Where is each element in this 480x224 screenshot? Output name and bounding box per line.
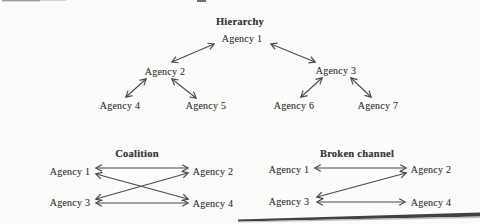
broken-channel-edges (315, 168, 406, 202)
hierarchy-node-agency1: Agency 1 (222, 33, 263, 44)
hierarchy-node-agency2: Agency 2 (145, 66, 186, 77)
top-edge-mark-faint (40, 0, 66, 1)
coalition-title: Coalition (115, 148, 159, 159)
coalition-edges (96, 168, 188, 203)
hierarchy-node-agency6: Agency 6 (274, 100, 315, 111)
coalition-node-agency2: Agency 2 (193, 166, 234, 177)
coalition-node-agency3: Agency 3 (50, 197, 91, 208)
edge-hierarchy-agency1-agency3 (271, 44, 315, 62)
scanned-diagram-page: Hierarchy Agency 1 Agency 2 Agency 3 Age… (0, 0, 480, 224)
top-edge-mark-left (2, 0, 40, 1)
broken-channel-node-agency4: Agency 4 (411, 197, 452, 208)
coalition-node-agency1: Agency 1 (50, 166, 91, 177)
broken-channel-title: Broken channel (320, 148, 394, 159)
hierarchy-node-agency4: Agency 4 (100, 100, 141, 111)
broken-channel-node-agency1: Agency 1 (269, 164, 310, 175)
edge-hierarchy-agency2-agency4 (126, 79, 146, 97)
hierarchy-node-agency5: Agency 5 (186, 100, 227, 111)
edge-hierarchy-agency3-agency6 (301, 78, 322, 97)
hierarchy-node-agency3: Agency 3 (316, 65, 357, 76)
edge-hierarchy-agency1-agency2 (172, 44, 214, 62)
top-edge-mark-center (197, 0, 206, 2)
hierarchy-node-agency7: Agency 7 (358, 100, 399, 111)
broken-channel-node-agency2: Agency 2 (411, 164, 452, 175)
edge-hierarchy-agency2-agency5 (172, 79, 196, 98)
edge-hierarchy-agency3-agency7 (351, 78, 371, 97)
coalition-node-agency4: Agency 4 (193, 198, 234, 209)
broken-channel-node-agency3: Agency 3 (269, 196, 310, 207)
edge-broken-agency2-agency3 (317, 173, 406, 197)
hierarchy-title: Hierarchy (216, 16, 264, 27)
